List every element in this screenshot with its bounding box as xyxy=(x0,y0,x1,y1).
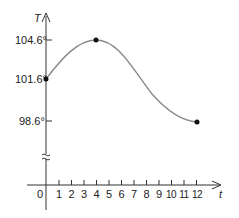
x-ticks xyxy=(59,180,197,185)
x-tick-label: 7 xyxy=(131,188,137,200)
end-point xyxy=(195,120,200,125)
x-tick-label: 3 xyxy=(81,188,87,200)
x-axis-label: t xyxy=(219,188,223,200)
x-tick-label: 4 xyxy=(93,188,99,200)
temperature-curve xyxy=(46,40,197,122)
x-tick-label: 10 xyxy=(166,189,177,200)
x-tick-label: 2 xyxy=(68,188,74,200)
x-tick-label: 1 xyxy=(56,188,62,200)
x-tick-label: 12 xyxy=(192,189,203,200)
y-tick-label-104: 104.6° xyxy=(15,34,47,46)
y-tick-label-101: 101.6° xyxy=(15,73,47,85)
x-tick-label: 9 xyxy=(156,188,162,200)
x-tick-label: 8 xyxy=(143,188,149,200)
start-point xyxy=(44,77,49,82)
y-tick-label-98: 98.6° xyxy=(19,115,45,127)
x-tick-label: 0 xyxy=(37,188,43,200)
max-point xyxy=(94,38,99,43)
x-tick-label: 11 xyxy=(179,189,189,200)
x-tick-label: 6 xyxy=(118,188,124,200)
x-tick-label: 5 xyxy=(106,188,112,200)
temperature-chart: T 104.6° 101.6° 98.6° t 0 1 2 3 4 5 6 7 … xyxy=(0,0,239,218)
y-axis-label: T xyxy=(34,12,42,24)
